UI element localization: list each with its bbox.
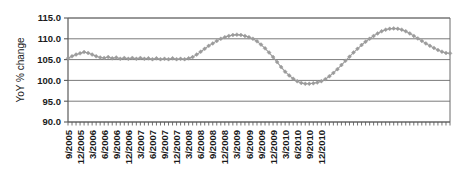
x-tick-label: 9/2007 [159,130,170,159]
x-tick-label: 12/2005 [75,129,86,164]
x-tick-label: 9/2005 [63,129,74,159]
x-tick-label: 6/2007 [147,130,158,159]
line-chart: 115.0110.0105.0100.095.090.0 9/200512/20… [0,0,476,175]
plot-background [68,18,450,122]
x-tick-label: 3/2009 [231,130,242,159]
x-tick-label: 12/2009 [268,130,279,164]
y-tick-label: 115.0 [38,12,61,23]
x-tick-label: 12/2010 [316,130,327,164]
y-tick-label: 90.0 [43,116,62,127]
x-tick-label: 6/2010 [292,130,303,159]
x-tick-label: 12/2008 [219,130,230,164]
x-tick-label: 3/2007 [135,130,146,159]
y-tick-label: 95.0 [43,96,62,107]
x-tick-label: 3/2010 [280,130,291,159]
x-tick-label: 3/2006 [87,130,98,159]
x-tick-label: 6/2008 [195,130,206,159]
x-axis-tick-labels: 9/200512/20053/20066/20069/200612/20063/… [63,129,327,164]
x-tick-label: 3/2008 [183,130,194,159]
y-axis-title: YoY % change [15,37,26,102]
x-tick-label: 6/2009 [244,130,255,159]
x-tick-label: 9/2010 [304,130,315,159]
chart-container: 115.0110.0105.0100.095.090.0 9/200512/20… [0,0,476,175]
y-tick-label: 110.0 [38,33,61,44]
x-tick-label: 9/2008 [207,130,218,159]
x-tick-label: 9/2009 [256,130,267,159]
y-tick-label: 105.0 [37,54,61,65]
x-tick-label: 6/2006 [99,130,110,159]
x-tick-label: 12/2007 [171,130,182,164]
y-axis-label: YoY % change [15,37,26,102]
y-axis-tick-labels: 115.0110.0105.0100.095.090.0 [37,12,61,127]
y-tick-label: 100.0 [37,75,61,86]
x-tick-label: 9/2006 [111,130,122,159]
x-tick-label: 12/2006 [123,130,134,164]
